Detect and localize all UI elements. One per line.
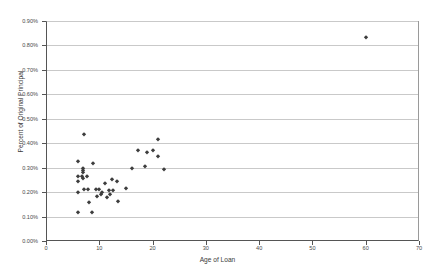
y-tick-label: 0.20% bbox=[22, 189, 38, 195]
gridline bbox=[47, 217, 418, 218]
data-point bbox=[103, 181, 107, 185]
data-point bbox=[87, 200, 91, 204]
data-point bbox=[156, 137, 160, 141]
x-tick-mark bbox=[419, 241, 420, 245]
data-point bbox=[95, 194, 99, 198]
plot-area bbox=[46, 21, 419, 241]
y-tick-mark bbox=[42, 143, 46, 144]
data-point bbox=[136, 148, 140, 152]
gridline bbox=[47, 21, 418, 22]
data-point bbox=[82, 132, 86, 136]
data-point bbox=[162, 167, 166, 171]
x-tick-label: 40 bbox=[256, 245, 262, 251]
y-tick-label: 0.80% bbox=[22, 42, 38, 48]
x-tick-label: 50 bbox=[309, 245, 315, 251]
x-tick-mark bbox=[153, 241, 154, 245]
gridline bbox=[47, 45, 418, 46]
data-point bbox=[76, 180, 80, 184]
y-tick-label: 0.30% bbox=[22, 165, 38, 171]
y-tick-label: 0.40% bbox=[22, 140, 38, 146]
data-point bbox=[115, 179, 119, 183]
data-point bbox=[76, 210, 80, 214]
y-tick-mark bbox=[42, 70, 46, 71]
data-point bbox=[76, 190, 80, 194]
y-tick-label: 0.00% bbox=[22, 238, 38, 244]
x-tick-label: 30 bbox=[203, 245, 209, 251]
y-tick-mark bbox=[42, 94, 46, 95]
data-point bbox=[110, 177, 114, 181]
y-tick-label: 0.50% bbox=[22, 116, 38, 122]
data-point bbox=[81, 176, 85, 180]
gridline bbox=[47, 94, 418, 95]
x-tick-label: 60 bbox=[363, 245, 369, 251]
data-point bbox=[151, 148, 155, 152]
data-point bbox=[105, 195, 109, 199]
data-point bbox=[90, 210, 94, 214]
data-point bbox=[117, 199, 121, 203]
x-tick-label: 0 bbox=[44, 245, 47, 251]
data-point bbox=[91, 161, 95, 165]
x-tick-mark bbox=[99, 241, 100, 245]
data-point bbox=[101, 190, 105, 194]
data-point bbox=[86, 187, 90, 191]
x-tick-mark bbox=[259, 241, 260, 245]
scatter-chart: 0.00%0.10%0.20%0.30%0.40%0.50%0.60%0.70%… bbox=[0, 0, 435, 272]
y-tick-mark bbox=[42, 217, 46, 218]
data-point bbox=[364, 35, 368, 39]
x-tick-label: 70 bbox=[416, 245, 422, 251]
x-tick-label: 20 bbox=[149, 245, 155, 251]
gridline bbox=[47, 70, 418, 71]
data-point bbox=[145, 150, 149, 154]
gridline bbox=[47, 143, 418, 144]
data-point bbox=[86, 174, 90, 178]
y-tick-mark bbox=[42, 192, 46, 193]
x-tick-mark bbox=[366, 241, 367, 245]
data-point bbox=[157, 155, 161, 159]
y-tick-label: 0.70% bbox=[22, 67, 38, 73]
y-tick-mark bbox=[42, 45, 46, 46]
gridline bbox=[47, 168, 418, 169]
y-axis-title: Percent of Original Principal bbox=[17, 37, 24, 187]
x-tick-mark bbox=[46, 241, 47, 245]
x-tick-mark bbox=[206, 241, 207, 245]
y-tick-mark bbox=[42, 168, 46, 169]
x-tick-label: 10 bbox=[96, 245, 102, 251]
data-point bbox=[76, 159, 80, 163]
data-point bbox=[125, 186, 129, 190]
x-axis-title: Age of Loan bbox=[0, 256, 435, 263]
y-tick-label: 0.10% bbox=[22, 214, 38, 220]
x-tick-mark bbox=[312, 241, 313, 245]
gridline bbox=[47, 119, 418, 120]
y-tick-mark bbox=[42, 119, 46, 120]
y-tick-label: 0.60% bbox=[22, 91, 38, 97]
y-tick-mark bbox=[42, 21, 46, 22]
y-tick-label: 0.90% bbox=[22, 18, 38, 24]
